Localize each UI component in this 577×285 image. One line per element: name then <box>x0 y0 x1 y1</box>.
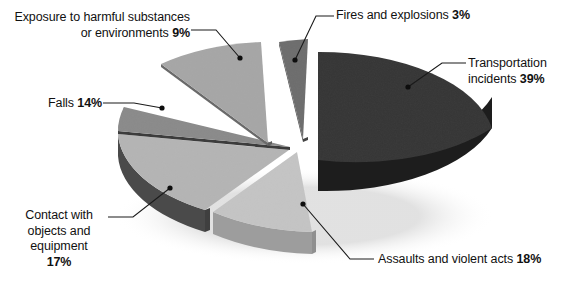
slice-label-transportation-line1: Transportation <box>468 56 547 70</box>
pie-chart: Exposure to harmful substances or enviro… <box>0 0 577 285</box>
leader-line-falls <box>103 103 162 108</box>
leader-dot-falls <box>159 105 164 110</box>
slice-label-fires-percent: 3% <box>452 8 470 22</box>
slice-label-falls[interactable]: Falls 14% <box>12 96 102 112</box>
slice-label-exposure-percent: 9% <box>172 26 190 40</box>
slice-label-transportation-line2: incidents <box>468 72 516 86</box>
slice-label-exposure-line1: Exposure to harmful substances <box>14 10 190 24</box>
slice-label-fires-text: Fires and explosions <box>336 8 449 22</box>
slice-label-contact[interactable]: Contact with objects and equipment 17% <box>10 208 108 270</box>
leader-dot-exposure <box>237 55 242 60</box>
leader-dot-assaults <box>300 201 305 206</box>
leader-dot-contact <box>167 185 172 190</box>
slice-label-fires[interactable]: Fires and explosions 3% <box>336 8 526 24</box>
slice-label-assaults-percent: 18% <box>516 252 541 266</box>
pie-slice-transportation[interactable] <box>318 52 492 191</box>
slice-label-contact-line2: objects and <box>28 224 91 238</box>
slice-label-assaults[interactable]: Assaults and violent acts 18% <box>378 252 576 268</box>
slice-label-falls-percent: 14% <box>77 96 102 110</box>
slice-label-falls-text: Falls <box>48 96 74 110</box>
slice-label-contact-line1: Contact with <box>25 208 93 222</box>
slice-label-contact-line3: equipment <box>30 239 87 253</box>
slice-label-assaults-text: Assaults and violent acts <box>378 252 513 266</box>
leader-dot-transportation <box>405 84 410 89</box>
pie-slice-fires[interactable] <box>279 39 308 142</box>
leader-dot-fires <box>292 57 297 62</box>
slice-label-exposure[interactable]: Exposure to harmful substances or enviro… <box>4 10 190 41</box>
slice-label-transportation[interactable]: Transportation incidents 39% <box>468 56 576 87</box>
slice-label-contact-percent: 17% <box>47 255 72 269</box>
slice-label-transportation-percent: 39% <box>520 72 545 86</box>
slice-label-exposure-line2: or environments <box>81 26 169 40</box>
